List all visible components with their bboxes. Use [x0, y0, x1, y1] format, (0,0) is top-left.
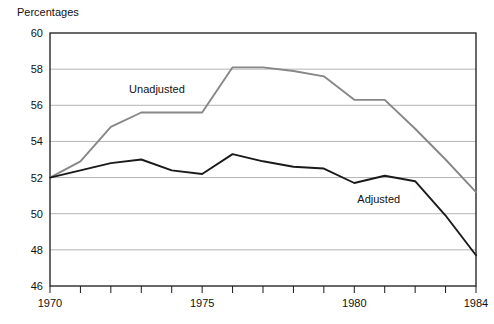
plot-frame	[50, 33, 476, 286]
x-tick-label: 1984	[456, 298, 494, 309]
chart-figure: Percentages 4648505254565860 19701975198…	[0, 0, 494, 324]
gridlines	[50, 69, 476, 250]
y-tick-label: 52	[21, 173, 43, 184]
data-series-group	[50, 67, 476, 255]
y-tick-label: 46	[21, 281, 43, 292]
y-tick-label: 54	[21, 136, 43, 147]
y-tick-label: 58	[21, 64, 43, 75]
chart-plot-area	[0, 0, 494, 324]
series-label-unadjusted: Unadjusted	[129, 83, 185, 95]
series-line-unadjusted	[50, 67, 476, 192]
y-axis-title: Percentages	[17, 6, 79, 19]
x-tick-label: 1975	[182, 298, 222, 309]
x-tick-label: 1980	[334, 298, 374, 309]
y-tick-label: 48	[21, 245, 43, 256]
y-tick-label: 60	[21, 28, 43, 39]
x-axis-ticks	[50, 286, 476, 293]
y-tick-label: 56	[21, 100, 43, 111]
axes-border	[50, 33, 476, 286]
series-label-adjusted: Adjusted	[357, 193, 400, 205]
y-tick-label: 50	[21, 209, 43, 220]
series-line-adjusted	[50, 154, 476, 255]
x-tick-label: 1970	[30, 298, 70, 309]
